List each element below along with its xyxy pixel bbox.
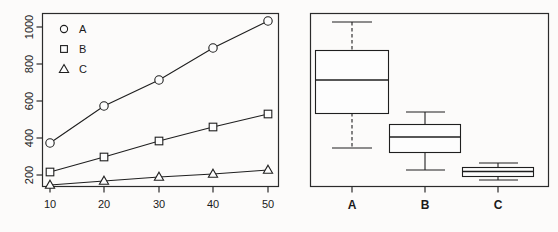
square-marker [61,46,68,53]
series-b-point [46,168,54,176]
x-tick-label: 50 [262,198,274,210]
series-a-point [264,17,272,25]
series-a-point [155,76,163,84]
series-c [45,165,272,188]
series-a-point [46,139,54,147]
legend: A B C [59,23,87,75]
line-plot-panel: 1000 800 600 400 200 10 20 30 40 50 [0,0,290,232]
boxplot-x-labels: A B C [348,198,503,212]
series-b-point [209,123,217,131]
series-a-point [100,102,108,110]
series-a [46,17,272,147]
series-b-point [100,153,108,161]
y-tick-label: 1000 [23,15,35,39]
x-tick-label: 20 [98,198,110,210]
legend-label-b: B [79,43,86,55]
boxplot-category-label: A [348,198,357,212]
series-c-point [208,169,217,177]
y-axis-tick-labels: 1000 800 600 400 200 [23,15,35,184]
legend-label-c: C [79,63,87,75]
box-plot-panel: A B C [290,0,558,232]
box-b [390,112,461,170]
x-tick-label: 40 [207,198,219,210]
circle-marker [60,25,67,32]
box-plot-svg: A B C [290,0,558,232]
plot-frame [43,14,279,187]
boxplot-category-label: C [494,198,503,212]
y-tick-label: 400 [23,129,35,147]
y-tick-label: 800 [23,55,35,73]
series-b [46,110,272,176]
line-plot-svg: 1000 800 600 400 200 10 20 30 40 50 [0,0,290,232]
y-tick-label: 200 [23,166,35,184]
box-c [463,163,534,180]
triangle-marker [59,65,68,73]
boxplot-x-ticks [352,187,498,193]
series-b-point [155,137,163,145]
box-a-body [316,51,389,114]
series-a-point [209,44,217,52]
x-axis-ticks [50,187,268,193]
x-tick-label: 30 [153,198,165,210]
series-c-point [45,180,54,188]
y-axis-ticks [37,27,43,175]
series-c-point [263,165,272,173]
series-c-point [99,176,108,184]
series-b-point [264,110,272,118]
boxplot-category-label: B [421,198,430,212]
legend-label-a: A [79,23,87,35]
two-panel-figure: 1000 800 600 400 200 10 20 30 40 50 [0,0,558,232]
y-tick-label: 600 [23,92,35,110]
series-c-point [154,172,163,180]
x-tick-label: 10 [44,198,56,210]
box-b-body [390,125,461,153]
x-axis-tick-labels: 10 20 30 40 50 [44,198,274,210]
box-a [316,22,389,148]
